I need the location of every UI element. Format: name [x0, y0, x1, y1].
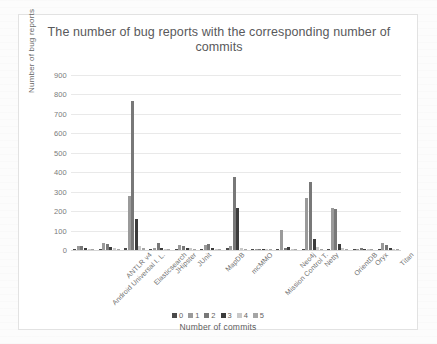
legend-swatch-icon [204, 313, 209, 318]
y-tick-200: 200 [54, 207, 67, 216]
x-tick-label: JUnit [196, 251, 213, 268]
bar [128, 196, 131, 250]
legend-item-2[interactable]: 2 [204, 311, 215, 320]
legend-item-1[interactable]: 1 [188, 311, 199, 320]
bar [226, 248, 229, 250]
bar [186, 248, 189, 250]
bar [341, 248, 344, 250]
bar [207, 244, 210, 250]
bar [251, 249, 254, 250]
bar [327, 249, 330, 250]
x-tick-label: Titan [399, 251, 415, 267]
x-tick-label: OrientDB [352, 251, 378, 277]
legend-item-0[interactable]: 0 [172, 311, 183, 320]
bar [80, 246, 83, 250]
bar [84, 248, 87, 250]
legend-label: 5 [260, 311, 264, 320]
y-axis-tick-labels: 9008007006005004003002001000 [41, 75, 67, 250]
bar [345, 249, 348, 250]
bar [276, 249, 279, 250]
bar [131, 101, 134, 250]
bar-group [325, 75, 350, 250]
bar [320, 249, 323, 250]
bar [258, 249, 261, 250]
chart-title: The number of bug reports with the corre… [47, 25, 391, 55]
bar [73, 249, 76, 250]
y-tick-800: 800 [54, 90, 67, 99]
bar [385, 245, 388, 250]
bar [255, 249, 258, 250]
chart-container: The number of bug reports with the corre… [18, 14, 418, 330]
bar [211, 248, 214, 250]
y-tick-0: 0 [63, 246, 67, 255]
y-tick-300: 300 [54, 187, 67, 196]
bar [91, 249, 94, 250]
x-tick-label: MapDB [224, 251, 246, 273]
bar [287, 247, 290, 250]
x-tick-label: mcMMO [250, 251, 274, 275]
bar [313, 239, 316, 250]
bar [124, 248, 127, 250]
bar [117, 249, 120, 250]
bar [294, 249, 297, 250]
plot-area: Number of bug reports 900800700600500400… [71, 75, 401, 250]
bar [149, 249, 152, 250]
bar-group [350, 75, 375, 250]
bar [331, 208, 334, 250]
bar [135, 219, 138, 250]
bar [305, 198, 308, 250]
legend-label: 2 [211, 311, 215, 320]
bar [113, 248, 116, 250]
bar-group [249, 75, 274, 250]
bar [309, 182, 312, 250]
legend-swatch-icon [237, 313, 242, 318]
bar [218, 249, 221, 250]
bar [363, 249, 366, 250]
bar [334, 209, 337, 250]
legend-item-4[interactable]: 4 [237, 311, 248, 320]
bar [302, 249, 305, 250]
y-tick-100: 100 [54, 226, 67, 235]
bar [189, 248, 192, 250]
y-tick-900: 900 [54, 71, 67, 80]
bar [167, 249, 170, 250]
y-tick-700: 700 [54, 109, 67, 118]
legend-swatch-icon [221, 313, 226, 318]
bar [182, 246, 185, 250]
bar-group [300, 75, 325, 250]
y-tick-500: 500 [54, 148, 67, 157]
legend-label: 0 [179, 311, 183, 320]
bar [389, 248, 392, 250]
bar-groups [71, 75, 401, 250]
bar [381, 243, 384, 250]
chart-legend: 012345 [19, 311, 417, 320]
bar [265, 249, 268, 250]
legend-item-3[interactable]: 3 [221, 311, 232, 320]
x-axis-tick-labels: Android Universal I. L.ANTLR v4Elasticse… [71, 251, 401, 313]
bar [392, 249, 395, 250]
bar [77, 246, 80, 250]
bar [229, 246, 232, 250]
bar [233, 177, 236, 251]
bar-group [96, 75, 121, 250]
bar-group [122, 75, 147, 250]
bar-group [274, 75, 299, 250]
bar [153, 248, 156, 250]
bar [178, 245, 181, 250]
bar [138, 246, 141, 250]
bar [396, 249, 399, 250]
y-tick-400: 400 [54, 168, 67, 177]
page-background: The number of bug reports with the corre… [0, 0, 437, 344]
bar [106, 244, 109, 250]
bar [102, 243, 105, 250]
legend-label: 1 [195, 311, 199, 320]
legend-swatch-icon [253, 313, 258, 318]
bar [356, 249, 359, 250]
bar [284, 248, 287, 250]
legend-item-5[interactable]: 5 [253, 311, 264, 320]
bar [204, 245, 207, 250]
bar [157, 243, 160, 250]
bar [215, 249, 218, 250]
bar [338, 244, 341, 250]
bar [200, 249, 203, 250]
